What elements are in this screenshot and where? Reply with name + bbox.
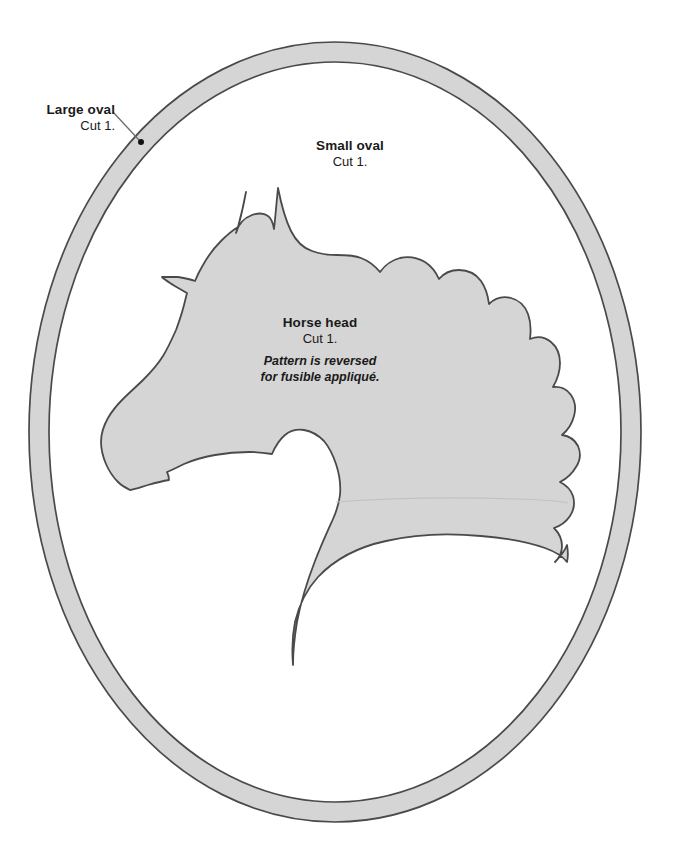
- large-oval-cut: Cut 1.: [30, 118, 115, 133]
- horse-head-title: Horse head: [215, 315, 425, 331]
- horse-head-note-line-2: for fusible appliqué.: [215, 370, 425, 385]
- small-oval-cut: Cut 1.: [245, 154, 455, 169]
- label-horse-head: Horse head Cut 1. Pattern is reversed fo…: [215, 315, 425, 385]
- label-small-oval: Small oval Cut 1.: [245, 138, 455, 169]
- label-large-oval: Large oval Cut 1.: [30, 102, 115, 133]
- horse-head-note-line-1: Pattern is reversed: [215, 354, 425, 369]
- registration-dot-icon: [138, 139, 144, 145]
- small-oval-title: Small oval: [245, 138, 455, 154]
- large-oval-title: Large oval: [30, 102, 115, 118]
- leader-line: [113, 112, 139, 140]
- horse-head-path: [101, 188, 580, 665]
- horse-head-cut: Cut 1.: [215, 331, 425, 346]
- large-oval-leader-group: [113, 112, 144, 145]
- pattern-sheet: Large oval Cut 1. Small oval Cut 1. Hors…: [0, 0, 676, 867]
- horse-head-silhouette: [101, 188, 580, 665]
- horse-head-note: Pattern is reversed for fusible appliqué…: [215, 354, 425, 385]
